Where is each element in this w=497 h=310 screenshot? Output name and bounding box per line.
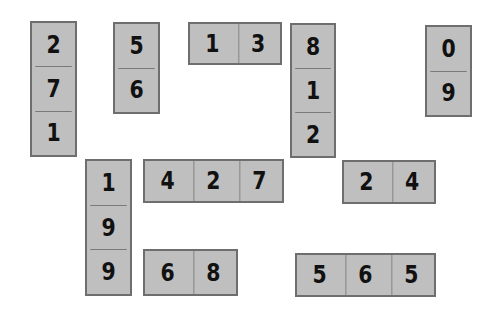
digit-cell: 1 [35,111,72,155]
digit-cell: 0 [430,27,467,71]
digit-cell: 7 [35,66,72,110]
digit-cell: 9 [90,205,127,250]
number-tile-24[interactable]: 2 4 [342,160,436,204]
digit-cell: 1 [295,68,331,112]
number-tile-812[interactable]: 8 1 2 [290,23,336,158]
digit-cell: 2 [295,112,331,156]
digit-cell: 8 [193,251,232,294]
number-tile-13[interactable]: 1 3 [188,22,282,65]
digit-cell: 6 [118,68,155,113]
digit-cell: 8 [295,25,331,68]
digit-cell: 5 [300,255,338,295]
number-tile-199[interactable]: 1 9 9 [85,159,132,296]
number-tile-56[interactable]: 5 6 [113,22,160,114]
digit-cell: 2 [193,161,232,201]
digit-cell: 5 [391,255,430,295]
digit-cell: 1 [90,161,127,205]
number-tile-271[interactable]: 2 7 1 [30,21,77,157]
digit-cell: 7 [239,161,278,201]
digit-cell: 4 [148,161,186,201]
digit-cell: 2 [35,23,72,66]
digit-cell: 6 [148,251,186,294]
digit-cell: 9 [430,71,467,116]
digit-cell: 2 [347,162,385,202]
digit-cell: 6 [345,255,384,295]
digit-cell: 5 [118,24,155,68]
number-tile-427[interactable]: 4 2 7 [143,159,284,203]
number-tile-68[interactable]: 6 8 [143,249,238,296]
number-tile-565[interactable]: 5 6 5 [295,253,436,297]
digit-cell: 1 [193,24,231,63]
number-tile-09[interactable]: 0 9 [425,25,472,117]
digit-cell: 4 [392,162,431,202]
digit-cell: 3 [238,24,277,63]
digit-cell: 9 [90,249,127,294]
